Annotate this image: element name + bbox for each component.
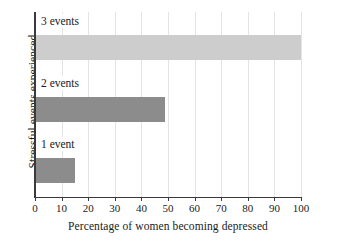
x-tick-mark (168, 197, 169, 201)
bar-category-label: 1 event (39, 137, 77, 151)
x-axis-title: Percentage of women becoming depressed (35, 220, 301, 232)
x-tick-mark (301, 197, 302, 201)
x-tick-mark (274, 197, 275, 201)
x-tick-label: 60 (180, 202, 210, 214)
gridline (301, 12, 302, 197)
x-tick-label: 0 (20, 202, 50, 214)
x-tick-mark (195, 197, 196, 201)
x-tick-mark (62, 197, 63, 201)
x-tick-label: 100 (286, 202, 316, 214)
x-tick-label: 20 (73, 202, 103, 214)
x-tick-label: 30 (100, 202, 130, 214)
x-tick-mark (88, 197, 89, 201)
x-tick-label: 90 (259, 202, 289, 214)
x-tick-mark (35, 197, 36, 201)
x-tick-label: 40 (126, 202, 156, 214)
x-tick-label: 80 (233, 202, 263, 214)
x-tick-label: 50 (153, 202, 183, 214)
x-tick-mark (248, 197, 249, 201)
x-tick-mark (221, 197, 222, 201)
y-axis-line (34, 12, 36, 198)
x-tick-mark (115, 197, 116, 201)
bar (35, 158, 75, 183)
plot-area: 3 events2 events1 event (35, 12, 301, 197)
x-tick-mark (141, 197, 142, 201)
bar (35, 97, 165, 122)
bar-category-label: 3 events (39, 14, 81, 28)
x-tick-label: 10 (47, 202, 77, 214)
bar (35, 35, 301, 60)
bar-category-label: 2 events (39, 76, 81, 90)
x-tick-label: 70 (206, 202, 236, 214)
bar-chart: Stressful events experienced 3 events2 e… (0, 0, 337, 249)
